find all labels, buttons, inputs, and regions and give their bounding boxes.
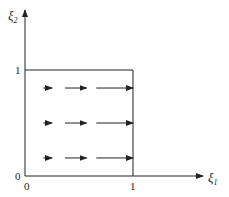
velocity-arrows	[43, 88, 133, 158]
x-tick-0: 0	[24, 180, 30, 192]
velocity-field-diagram: ξ2 ξ1 1 0 0 1	[0, 0, 229, 197]
x-axis-label: ξ1	[208, 170, 218, 187]
y-axis-label: ξ2	[8, 8, 18, 25]
x-tick-1: 1	[130, 180, 136, 192]
y-tick-0: 0	[15, 170, 21, 182]
y-tick-1: 1	[15, 64, 21, 76]
